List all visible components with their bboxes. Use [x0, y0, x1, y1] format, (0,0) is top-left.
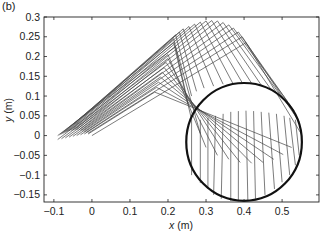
x-axis: −0.100.10.20.30.40.5 — [44, 17, 290, 217]
x-axis-unit: (m) — [174, 219, 193, 231]
x-tick-label: 0.3 — [199, 205, 214, 217]
end-effector-segment — [290, 118, 296, 165]
y-tick-label: 0.1 — [25, 90, 40, 102]
x-tick-label: 0 — [89, 205, 95, 217]
panel-label: (b) — [2, 0, 15, 12]
end-effector-segment — [276, 114, 282, 182]
x-tick-label: 0.5 — [275, 205, 290, 217]
y-axis-unit: (m) — [2, 98, 14, 117]
y-tick-label: −0.1 — [19, 169, 40, 181]
linkage-trajectory-chart: (b) −0.100.10.20.30.40.5 0.30.250.20.150… — [0, 0, 322, 234]
x-tick-label: 0.1 — [123, 205, 138, 217]
end-effector-segment — [269, 113, 275, 189]
y-tick-label: 0.25 — [20, 30, 41, 42]
y-tick-label: 0 — [34, 129, 40, 141]
y-tick-label: −0.05 — [13, 149, 40, 161]
end-effector-segment — [214, 116, 216, 195]
y-tick-label: 0.2 — [25, 50, 40, 62]
x-tick-label: −0.1 — [44, 205, 65, 217]
y-tick-label: 0.15 — [20, 70, 41, 82]
end-effector-segment — [246, 111, 248, 202]
y-tick-label: 0.05 — [20, 109, 41, 121]
y-tick-label: 0.3 — [25, 11, 40, 23]
y-axis-label: y (m) — [2, 98, 14, 123]
x-tick-label: 0.2 — [161, 205, 176, 217]
end-effector-segment — [284, 116, 290, 175]
plot-area — [58, 21, 302, 202]
y-tick-label: −0.15 — [13, 188, 40, 200]
end-effector-segment — [221, 114, 223, 199]
x-axis-label: x (m) — [168, 219, 193, 231]
x-tick-label: 0.4 — [237, 205, 252, 217]
